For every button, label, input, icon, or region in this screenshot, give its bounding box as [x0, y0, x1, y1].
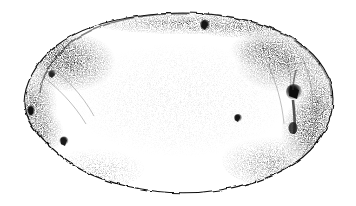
- eye-upper-left: [48, 70, 56, 78]
- potato-tuber-illustration: [0, 0, 356, 206]
- eye-top-center: [200, 20, 210, 31]
- illustration-canvas: Potato tuber: [0, 0, 356, 206]
- eye-center-right: [234, 114, 242, 122]
- eye-left-edge: [27, 106, 35, 117]
